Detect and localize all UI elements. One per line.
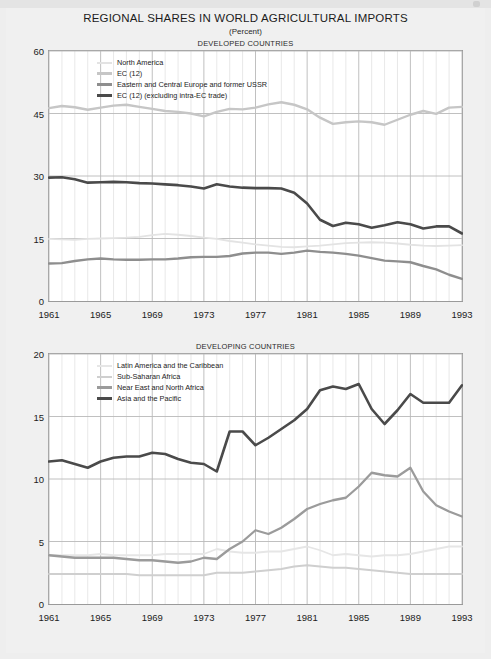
y-axis-tick-label: 5: [4, 536, 44, 547]
legend-item-label: Asia and the Pacific: [117, 393, 181, 404]
legend-item: EC (12): [97, 68, 267, 79]
chart2-legend: Latin America and the CaribbeanSub-Sahar…: [97, 360, 223, 404]
chart2-x-axis: 196119651969197319771981198519891993: [48, 609, 463, 625]
legend-item-label: EC (12) (excluding intra-EC trade): [117, 90, 227, 101]
x-axis-tick-label: 1973: [193, 612, 214, 623]
y-axis-tick-label: 0: [4, 599, 44, 610]
x-axis-tick-label: 1981: [297, 309, 318, 320]
y-axis-tick-label: 60: [4, 46, 44, 57]
legend-item: EC (12) (excluding intra-EC trade): [97, 90, 267, 101]
legend-item-label: North America: [117, 57, 163, 68]
x-axis-tick-label: 1977: [245, 612, 266, 623]
legend-item-label: Eastern and Central Europe and former US…: [117, 79, 267, 90]
x-axis-tick-label: 1985: [348, 309, 369, 320]
x-axis-tick-label: 1961: [38, 309, 59, 320]
x-axis-tick-label: 1993: [451, 309, 472, 320]
page-background: REGIONAL SHARES IN WORLD AGRICULTURAL IM…: [0, 0, 491, 659]
y-axis-tick-label: 30: [4, 171, 44, 182]
chart2-title: DEVELOPING COUNTRIES: [0, 342, 491, 351]
legend-swatch-icon: [97, 94, 112, 97]
x-axis-tick-label: 1969: [142, 309, 163, 320]
x-axis-tick-label: 1969: [142, 612, 163, 623]
y-axis-tick-label: 10: [4, 474, 44, 485]
page-subtitle: (Percent): [0, 27, 491, 36]
legend-item: Eastern and Central Europe and former US…: [97, 79, 267, 90]
legend-item: Asia and the Pacific: [97, 393, 223, 404]
legend-item-label: EC (12): [117, 68, 142, 79]
legend-item: Near East and North Africa: [97, 382, 223, 393]
x-axis-tick-label: 1965: [90, 309, 111, 320]
y-axis-tick-label: 45: [4, 108, 44, 119]
y-axis-tick-label: 20: [4, 349, 44, 360]
x-axis-tick-label: 1961: [38, 612, 59, 623]
x-axis-tick-label: 1993: [451, 612, 472, 623]
legend-swatch-icon: [97, 386, 112, 388]
x-axis-tick-label: 1965: [90, 612, 111, 623]
legend-item: North America: [97, 57, 267, 68]
page-title: REGIONAL SHARES IN WORLD AGRICULTURAL IM…: [0, 12, 491, 24]
x-axis-tick-label: 1989: [400, 309, 421, 320]
x-axis-tick-label: 1973: [193, 309, 214, 320]
y-axis-tick-label: 15: [4, 411, 44, 422]
legend-swatch-icon: [97, 62, 112, 64]
legend-item: Latin America and the Caribbean: [97, 360, 223, 371]
top-strip: [0, 0, 491, 8]
legend-item-label: Sub-Saharan Africa: [117, 371, 180, 382]
legend-swatch-icon: [97, 72, 112, 74]
legend-item-label: Latin America and the Caribbean: [117, 360, 223, 371]
legend-swatch-icon: [97, 397, 112, 400]
legend-swatch-icon: [97, 83, 112, 85]
chart2-y-axis: 05101520: [0, 353, 44, 605]
legend-item-label: Near East and North Africa: [117, 382, 204, 393]
x-axis-tick-label: 1977: [245, 309, 266, 320]
corner-artifact-icon: [473, 1, 480, 7]
legend-item: Sub-Saharan Africa: [97, 371, 223, 382]
y-axis-tick-label: 15: [4, 233, 44, 244]
legend-swatch-icon: [97, 376, 112, 378]
y-axis-tick-label: 0: [4, 296, 44, 307]
x-axis-tick-label: 1981: [297, 612, 318, 623]
chart1-title: DEVELOPED COUNTRIES: [0, 39, 491, 48]
chart1-y-axis: 015304560: [0, 50, 44, 302]
chart1-x-axis: 196119651969197319771981198519891993: [48, 306, 463, 322]
x-axis-tick-label: 1985: [348, 612, 369, 623]
legend-swatch-icon: [97, 365, 112, 367]
chart1-legend: North AmericaEC (12)Eastern and Central …: [97, 57, 267, 101]
x-axis-tick-label: 1989: [400, 612, 421, 623]
